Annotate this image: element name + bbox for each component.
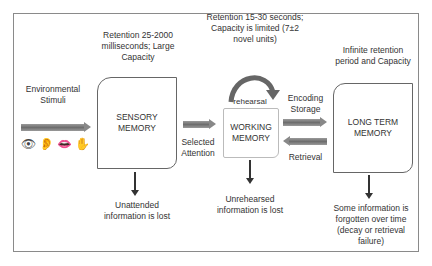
ltm-forgetting-note: Some information is forgotten over time … <box>331 203 411 247</box>
retrieval-label: Retrieval <box>283 152 328 163</box>
hand-icon: ✋ <box>75 137 90 151</box>
sensory-memory-box: SENSORY MEMORY <box>97 77 177 169</box>
senses-icons: 👁 👂 👄 ✋ <box>21 137 90 151</box>
stimuli-arrow <box>21 124 91 131</box>
rehearsal-label: rehearsal <box>230 96 270 107</box>
sensory-memory-label: SENSORY MEMORY <box>112 112 162 134</box>
working-loss-arrow <box>249 160 251 180</box>
retrieval-arrow <box>283 138 327 145</box>
ltm-retention-note: Infinite retention period and Capacity <box>330 45 416 67</box>
eye-icon: 👁 <box>21 137 36 151</box>
environmental-stimuli-label: Environmental Stimuli <box>18 84 88 106</box>
long-term-memory-label: LONG TERM MEMORY <box>345 117 401 139</box>
selected-attention-label: Selected Attention <box>178 137 218 159</box>
encoding-storage-label: Encoding Storage <box>283 93 328 115</box>
sensory-retention-note: Retention 25-2000 milliseconds; Large Ca… <box>95 30 181 63</box>
encoding-arrow <box>283 119 327 126</box>
working-memory-box: WORKING MEMORY <box>223 108 279 158</box>
working-memory-label: WORKING MEMORY <box>228 122 274 144</box>
ltm-loss-arrow <box>368 175 370 195</box>
working-retention-note: Retention 15-30 seconds; Capacity is lim… <box>200 12 310 45</box>
long-term-memory-box: LONG TERM MEMORY <box>333 83 413 173</box>
sensory-loss-arrow <box>134 172 136 192</box>
working-loss-note: Unrehearsed information is lost <box>210 194 290 216</box>
ear-icon: 👂 <box>39 137 54 151</box>
sensory-loss-note: Unattended information is lost <box>97 200 177 222</box>
mouth-icon: 👄 <box>57 137 72 151</box>
attention-arrow <box>183 121 216 128</box>
